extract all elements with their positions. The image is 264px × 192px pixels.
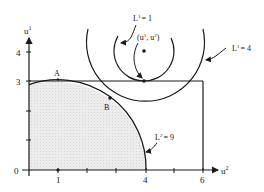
y-tick-3: 3: [16, 77, 21, 87]
bliss-label: (u1, u2): [137, 33, 160, 42]
l1-large-arrow: [206, 48, 226, 60]
l1-small-label: L1= 1: [133, 14, 152, 23]
l2-label: L2= 9: [155, 133, 174, 142]
bliss-arrow: [134, 43, 142, 78]
point-a-label: A: [54, 69, 60, 78]
l2-arrow: [146, 143, 157, 152]
l1-large-label: L1= 4: [232, 44, 251, 53]
point-b-label: B: [104, 103, 109, 112]
x-tick-6: 6: [200, 175, 205, 185]
feasible-region: [29, 82, 146, 170]
x-tick-4: 4: [143, 175, 148, 185]
y-tick-4: 4: [16, 48, 21, 58]
bliss-point: [142, 49, 146, 53]
y-tick-0: 0: [14, 166, 19, 176]
tangent-point: [142, 79, 146, 83]
l2-center-point: [56, 168, 59, 171]
l1-small-arrow: [121, 25, 136, 43]
y-axis-label: u1: [24, 25, 32, 36]
point-b: [108, 96, 112, 100]
x-axis-label: u2: [221, 165, 229, 176]
indifference-diagram: 1 4 6 0 3 4 u2 u1 (u1, u2) A B L1= 1 L1=…: [0, 0, 264, 192]
x-tick-1: 1: [56, 175, 61, 185]
